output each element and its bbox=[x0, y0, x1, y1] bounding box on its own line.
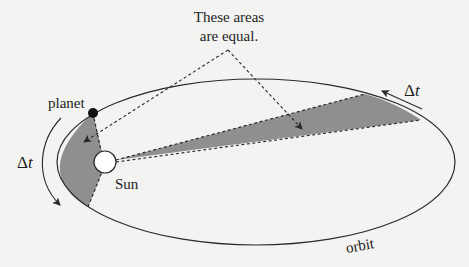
time-var-right: t bbox=[415, 81, 420, 100]
planet-label: planet bbox=[48, 96, 85, 111]
callout-arrow-left bbox=[84, 50, 228, 142]
callout-line-2: are equal. bbox=[176, 27, 282, 46]
equal-areas-callout: These areas are equal. bbox=[176, 8, 282, 46]
delta-symbol-right: Δ bbox=[404, 81, 415, 100]
delta-symbol-left: Δ bbox=[17, 153, 28, 172]
sun-label: Sun bbox=[115, 177, 138, 192]
delta-t-left: Δt bbox=[17, 154, 33, 171]
delta-t-right: Δt bbox=[404, 82, 420, 99]
planet-dot bbox=[88, 108, 98, 118]
sun-circle bbox=[94, 151, 116, 173]
far-sector-area bbox=[116, 94, 421, 160]
motion-arrow-left bbox=[42, 118, 61, 205]
time-var-left: t bbox=[28, 153, 33, 172]
callout-line-1: These areas bbox=[176, 8, 282, 27]
kepler-diagram: These areas are equal. planet Sun orbit … bbox=[0, 0, 469, 267]
